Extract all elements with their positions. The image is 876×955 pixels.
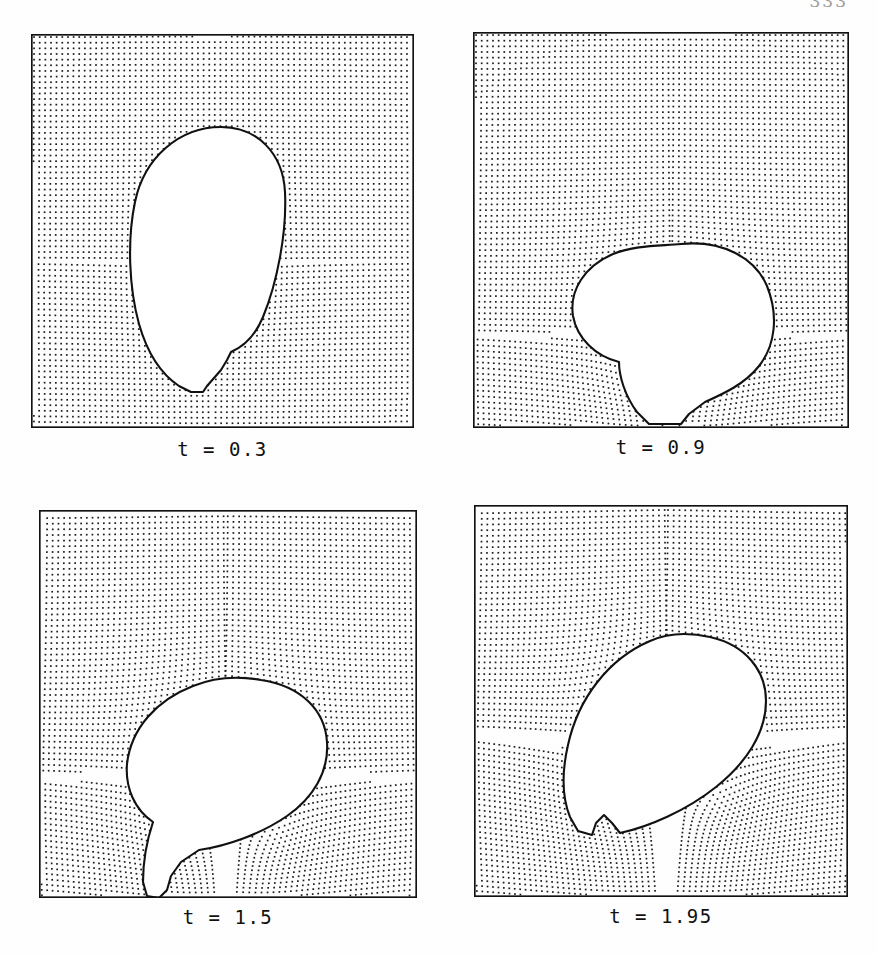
panel-t195-plot	[474, 505, 848, 897]
panel-t15-caption: t = 1.5	[39, 906, 417, 928]
panel-grid: t = 0.3 t	[0, 0, 876, 955]
panel-t15: t = 1.5	[39, 510, 417, 898]
panel-t03-plot	[31, 34, 414, 428]
figure-sheet: 333 t = 0.	[0, 0, 876, 955]
panel-t09-caption: t = 0.9	[473, 436, 849, 458]
panel-t195-caption: t = 1.95	[474, 905, 848, 927]
panel-t195: t = 1.95	[474, 505, 848, 897]
panel-t15-plot	[39, 510, 417, 898]
panel-t03-caption: t = 0.3	[31, 438, 414, 460]
panel-t09-plot	[473, 32, 849, 428]
panel-t09: t = 0.9	[473, 32, 849, 428]
panel-t03: t = 0.3	[31, 34, 414, 428]
